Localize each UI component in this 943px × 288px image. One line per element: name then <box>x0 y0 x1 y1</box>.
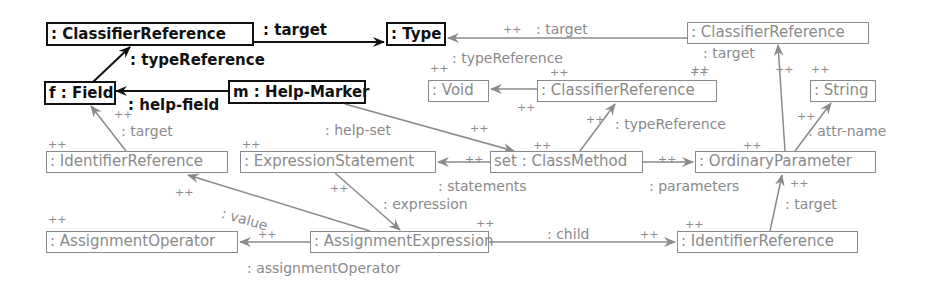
create-marker: ++ <box>48 139 66 151</box>
edge-label-attr-name: : attr-name <box>808 123 886 139</box>
create-marker: ++ <box>658 154 676 166</box>
edge-label-target-bold: : target <box>263 22 327 38</box>
edge-label-assignment-operator: : assignmentOperator <box>247 260 400 276</box>
create-marker: ++ <box>330 183 348 195</box>
node-string[interactable]: : String <box>810 80 876 102</box>
node-identifier-reference-field[interactable]: : IdentifierReference <box>46 151 228 173</box>
create-marker: ++ <box>790 178 808 190</box>
node-classifier-reference-target[interactable]: : ClassifierReference <box>687 22 869 44</box>
create-marker: ++ <box>743 140 761 152</box>
create-marker: ++ <box>242 139 260 151</box>
node-field[interactable]: f : Field <box>44 81 116 105</box>
edge-typereference-classmethod-classifierref <box>580 104 615 151</box>
edge-label-typereference-void: : typeReference <box>452 50 563 66</box>
create-marker: ++ <box>48 214 66 226</box>
edge-label-help-field: : help-field <box>128 97 219 113</box>
create-marker: ++ <box>797 111 815 123</box>
create-marker: ++ <box>503 24 521 36</box>
create-marker: ++ <box>640 229 658 241</box>
edge-label-target-field: : target <box>121 123 173 139</box>
node-expression-statement[interactable]: : ExpressionStatement <box>240 151 436 173</box>
create-marker: ++ <box>775 64 793 76</box>
edge-label-statements: : statements <box>438 178 527 194</box>
edge-label-child: : child <box>547 226 589 242</box>
edge-target-identifierref-ordinaryparam <box>770 175 782 231</box>
node-void[interactable]: : Void <box>428 80 489 102</box>
create-marker: ++ <box>258 229 276 241</box>
object-diagram: : ClassifierReference : Type f : Field m… <box>0 0 943 288</box>
create-marker: ++ <box>470 123 488 135</box>
node-help-marker[interactable]: m : Help-Marker <box>228 80 366 104</box>
create-marker: ++ <box>465 154 483 166</box>
node-assignment-operator[interactable]: : AssignmentOperator <box>46 231 238 253</box>
edge-target-ordinaryparam-classifierref <box>778 45 785 151</box>
edge-label-parameters: : parameters <box>649 178 739 194</box>
create-marker: ++ <box>476 218 494 230</box>
create-marker: ++ <box>114 109 132 121</box>
edge-label-target-ordinaryparam: : target <box>703 45 755 61</box>
edge-label-target-type: : target <box>536 21 588 37</box>
edge-label-expression: : expression <box>383 196 468 212</box>
create-marker: ++ <box>586 114 604 126</box>
create-marker: ++ <box>811 64 829 76</box>
create-marker: ++ <box>430 63 448 75</box>
create-marker: ++ <box>175 187 193 199</box>
node-classifier-reference-context[interactable]: : ClassifierReference <box>46 22 254 46</box>
node-classifier-reference-void[interactable]: : ClassifierReference <box>537 80 717 102</box>
edge-label-target-identifierref: : target <box>785 196 837 212</box>
node-type[interactable]: : Type <box>386 22 446 46</box>
node-class-method-set[interactable]: set : ClassMethod <box>490 151 643 173</box>
create-marker: ++ <box>533 140 551 152</box>
create-marker: ++ <box>517 102 535 114</box>
edge-label-typereference-bold: : typeReference <box>130 52 265 68</box>
edge-label-typereference-classmethod: : typeReference <box>615 116 726 132</box>
node-assignment-expression[interactable]: : AssignmentExpression <box>310 231 489 253</box>
edge-label-help-set: : help-set <box>325 122 391 138</box>
create-marker: ++ <box>691 64 709 76</box>
create-marker: ++ <box>685 219 703 231</box>
create-marker: ++ <box>550 67 568 79</box>
node-ordinary-parameter[interactable]: : OrdinaryParameter <box>695 151 876 173</box>
node-identifier-reference-param[interactable]: : IdentifierReference <box>677 231 858 253</box>
edge-typereference-field-classifierref <box>93 47 130 82</box>
